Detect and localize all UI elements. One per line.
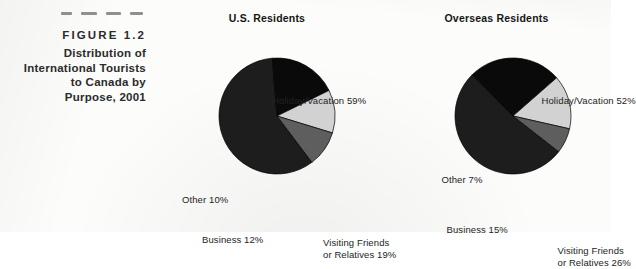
- pie-label-us-vfr-line1: Visiting Friends: [323, 237, 396, 249]
- figure-caption-text: Distribution of International Tourists t…: [8, 46, 148, 104]
- pie-label-overseas-holiday: Holiday/Vacation 52%: [542, 95, 636, 107]
- pie-chart-us-residents: Holiday/Vacation 59% Other 10% Business …: [218, 57, 336, 175]
- chart-panel-us-residents: U.S. Residents Holiday/Vacation 59% Othe…: [152, 0, 382, 232]
- chart-title-overseas-residents: Overseas Residents: [382, 12, 611, 24]
- figure-number-label: FIGURE 1.2: [8, 29, 148, 41]
- chart-title-us-residents: U.S. Residents: [152, 12, 382, 24]
- chart-panel-overseas-residents: Overseas Residents Holiday/Vacation 52% …: [382, 0, 611, 232]
- pie-label-us-other: Other 10%: [182, 194, 228, 206]
- pie-svg-us: [218, 57, 336, 175]
- pie-svg-overseas: [454, 57, 572, 175]
- decorative-rule-marks: [8, 8, 148, 18]
- rule-mark-icon: [106, 12, 121, 15]
- pie-label-us-business: Business 12%: [202, 234, 263, 246]
- pie-label-us-vfr-line2: or Relatives 19%: [323, 249, 396, 261]
- caption-line-1: Distribution of: [8, 46, 146, 61]
- caption-line-3: to Canada by: [8, 75, 146, 90]
- pie-chart-overseas-residents: Holiday/Vacation 52% Other 7% Business 1…: [454, 57, 572, 175]
- pie-label-overseas-business: Business 15%: [447, 224, 508, 236]
- caption-line-4: Purpose, 2001: [8, 90, 146, 105]
- figure-caption-block: FIGURE 1.2 Distribution of International…: [8, 8, 148, 104]
- caption-line-2: International Tourists: [8, 61, 146, 76]
- rule-mark-icon: [130, 12, 143, 15]
- pie-label-overseas-vfr-line1: Visiting Friends: [558, 245, 631, 257]
- pie-label-us-holiday: Holiday/Vacation 59%: [272, 95, 366, 107]
- rule-mark-icon: [61, 12, 72, 15]
- pie-label-overseas-vfr-line2: or Relatives 26%: [558, 257, 631, 269]
- rule-mark-icon: [81, 12, 97, 15]
- pie-label-overseas-other: Other 7%: [442, 174, 483, 186]
- pie-label-us-vfr: Visiting Friends or Relatives 19%: [323, 237, 396, 261]
- pie-label-overseas-vfr: Visiting Friends or Relatives 26%: [558, 245, 631, 269]
